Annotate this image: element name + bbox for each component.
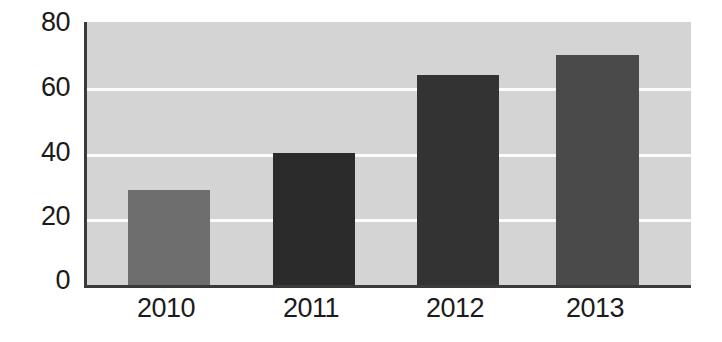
y-tick-label-0: 0 xyxy=(0,267,70,294)
y-tick-label-20: 20 xyxy=(0,203,70,230)
bar-2011 xyxy=(273,153,355,285)
x-tick-label-2013: 2013 xyxy=(535,293,655,323)
bar-2010 xyxy=(128,190,210,285)
x-axis-tick-labels: 2010 2011 2012 2013 xyxy=(84,293,688,333)
x-tick-label-2011: 2011 xyxy=(251,293,371,323)
x-axis-line xyxy=(84,285,691,288)
bar-2013 xyxy=(556,55,639,285)
x-tick-label-2012: 2012 xyxy=(395,293,515,323)
plot-area xyxy=(84,22,691,285)
y-tick-label-80: 80 xyxy=(0,9,70,36)
y-tick-label-40: 40 xyxy=(0,139,70,166)
plot-inner xyxy=(87,22,691,285)
bar-chart: 80 60 40 20 0 2010 2011 2012 2013 xyxy=(0,0,722,342)
y-axis-tick-labels: 80 60 40 20 0 xyxy=(0,0,82,342)
bar-2012 xyxy=(417,75,499,285)
y-tick-label-60: 60 xyxy=(0,74,70,101)
x-tick-label-2010: 2010 xyxy=(106,293,226,323)
